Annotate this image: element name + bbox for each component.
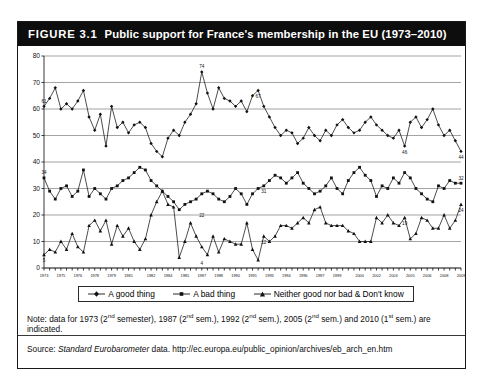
- data-point-marker: [87, 115, 90, 118]
- data-point-marker: [76, 190, 79, 193]
- data-point-marker: [223, 97, 226, 100]
- data-point-marker: [454, 182, 457, 185]
- legend-marker-diamond-icon: [88, 290, 105, 298]
- data-point-marker: [76, 245, 80, 248]
- data-point-marker: [167, 195, 170, 198]
- figure-title-text: Public support for France's membership i…: [105, 28, 447, 40]
- data-point-marker: [70, 232, 74, 235]
- data-point-label: 24: [458, 208, 464, 213]
- x-tick-label: 2009: [457, 273, 465, 278]
- data-point-marker: [195, 198, 198, 201]
- data-point-marker: [262, 184, 265, 187]
- data-point-marker: [285, 182, 288, 185]
- data-point-marker: [409, 177, 412, 180]
- data-point-marker: [88, 195, 91, 198]
- data-point-marker: [71, 195, 74, 198]
- data-point-marker: [403, 171, 406, 174]
- y-tick-label: 50: [33, 132, 41, 139]
- data-point-marker: [330, 177, 333, 180]
- data-point-marker: [251, 248, 255, 251]
- data-point-label: 32: [458, 176, 464, 181]
- data-point-marker: [313, 192, 316, 195]
- data-point-marker: [110, 187, 113, 190]
- data-point-marker: [341, 192, 344, 195]
- x-tick-label: 2002: [372, 273, 381, 278]
- data-point-marker: [138, 166, 141, 169]
- data-point-marker: [217, 250, 221, 253]
- x-tick-label: 1997: [316, 273, 325, 278]
- data-point-marker: [127, 226, 131, 229]
- data-point-marker: [116, 184, 119, 187]
- data-point-marker: [155, 200, 159, 203]
- data-point-marker: [262, 105, 265, 108]
- data-point-marker: [200, 192, 203, 195]
- x-tick-label: 1982: [147, 273, 156, 278]
- data-point-marker: [245, 221, 249, 224]
- data-point-marker: [189, 200, 192, 203]
- data-point-marker: [279, 177, 282, 180]
- x-tick-label: 1975: [57, 273, 66, 278]
- data-point-marker: [133, 171, 136, 174]
- data-point-marker: [358, 166, 361, 169]
- data-point-marker: [48, 190, 51, 193]
- x-tick-label: 1993: [265, 273, 274, 278]
- data-point-marker: [200, 70, 203, 73]
- data-point-marker: [403, 144, 406, 147]
- x-tick-label: 2000: [355, 273, 364, 278]
- y-tick-label: 60: [33, 105, 41, 112]
- data-point-marker: [183, 203, 186, 206]
- data-point-marker: [454, 218, 458, 221]
- data-point-marker: [144, 169, 147, 172]
- source-url[interactable]: http://ec.europa.eu/public_opinion/archi…: [172, 344, 392, 354]
- data-point-marker: [336, 187, 339, 190]
- data-point-marker: [431, 200, 434, 203]
- line-chart: 0102030405060708019731975197619781979198…: [18, 46, 465, 308]
- y-tick-label: 30: [33, 185, 41, 192]
- x-tick-label: 1984: [164, 273, 173, 278]
- legend-item-neither: Neither good nor bad & Don't know: [254, 289, 404, 299]
- data-point-marker: [217, 198, 220, 201]
- data-point-label: 4: [201, 261, 204, 266]
- chart-plot-area: 0102030405060708019731975197619781979198…: [18, 46, 465, 308]
- y-tick-label: 70: [33, 79, 41, 86]
- data-point-marker: [240, 192, 243, 195]
- data-point-marker: [273, 234, 277, 237]
- data-point-marker: [318, 205, 322, 208]
- data-point-marker: [104, 144, 107, 147]
- data-point-marker: [211, 234, 215, 237]
- data-point-label: 34: [41, 170, 47, 175]
- data-point-marker: [144, 237, 148, 240]
- data-point-marker: [324, 221, 328, 224]
- data-point-marker: [60, 187, 63, 190]
- data-point-marker: [212, 192, 215, 195]
- data-point-marker: [454, 139, 457, 142]
- figure-note: Note: data for 1973 (2nd semester), 1987…: [27, 311, 459, 335]
- data-point-marker: [369, 179, 372, 182]
- data-point-label: 67: [256, 94, 262, 99]
- data-point-marker: [189, 221, 193, 224]
- x-tick-label: 1976: [73, 273, 82, 278]
- data-point-label: 46: [402, 150, 408, 155]
- x-tick-label: 1981: [124, 273, 133, 278]
- data-point-marker: [245, 203, 248, 206]
- source-publication: Standard Eurobarometer: [58, 344, 149, 354]
- data-point-marker: [200, 245, 204, 248]
- source-label: Source:: [27, 344, 56, 354]
- data-point-marker: [364, 174, 367, 177]
- chart-legend: A good thing A bad thing Neither good no…: [78, 286, 414, 302]
- data-point-marker: [110, 242, 114, 245]
- legend-item-good: A good thing: [88, 289, 155, 299]
- figure-container: FIGURE 3.1Public support for France's me…: [0, 0, 483, 387]
- data-point-marker: [93, 218, 97, 221]
- data-point-label: 12: [261, 240, 267, 245]
- x-tick-label: 1999: [333, 273, 342, 278]
- data-point-marker: [256, 258, 260, 261]
- data-point-marker: [426, 198, 429, 201]
- data-point-marker: [178, 208, 181, 211]
- data-point-marker: [347, 179, 350, 182]
- data-point-marker: [459, 150, 462, 153]
- figure-divider: [18, 335, 465, 336]
- data-point-label: 22: [199, 213, 205, 218]
- data-point-marker: [245, 110, 248, 113]
- x-tick-label: 1973: [40, 273, 49, 278]
